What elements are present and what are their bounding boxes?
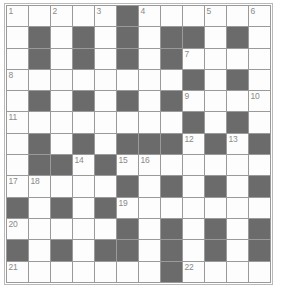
white-cell[interactable]	[73, 240, 95, 261]
white-cell[interactable]	[183, 240, 205, 261]
white-cell[interactable]	[7, 27, 29, 48]
white-cell[interactable]	[161, 6, 183, 27]
white-cell[interactable]	[51, 48, 73, 69]
white-cell[interactable]	[249, 155, 271, 176]
white-cell[interactable]	[95, 91, 117, 112]
white-cell[interactable]	[95, 69, 117, 90]
white-cell[interactable]	[51, 218, 73, 239]
white-cell[interactable]: 3	[95, 6, 117, 27]
white-cell[interactable]	[95, 112, 117, 133]
white-cell[interactable]	[249, 197, 271, 218]
white-cell[interactable]	[51, 133, 73, 154]
white-cell[interactable]	[7, 155, 29, 176]
white-cell[interactable]	[139, 112, 161, 133]
white-cell[interactable]	[183, 218, 205, 239]
white-cell[interactable]: 21	[7, 261, 29, 282]
white-cell[interactable]: 10	[249, 91, 271, 112]
white-cell[interactable]	[95, 27, 117, 48]
white-cell[interactable]	[205, 69, 227, 90]
white-cell[interactable]	[95, 218, 117, 239]
white-cell[interactable]	[161, 197, 183, 218]
white-cell[interactable]	[205, 197, 227, 218]
white-cell[interactable]: 6	[249, 6, 271, 27]
white-cell[interactable]	[73, 6, 95, 27]
white-cell[interactable]	[73, 218, 95, 239]
white-cell[interactable]: 20	[7, 218, 29, 239]
white-cell[interactable]	[139, 91, 161, 112]
white-cell[interactable]	[51, 91, 73, 112]
white-cell[interactable]	[227, 240, 249, 261]
white-cell[interactable]	[95, 133, 117, 154]
white-cell[interactable]	[139, 240, 161, 261]
white-cell[interactable]	[29, 261, 51, 282]
white-cell[interactable]	[227, 6, 249, 27]
white-cell[interactable]	[29, 69, 51, 90]
white-cell[interactable]: 11	[7, 112, 29, 133]
white-cell[interactable]: 9	[183, 91, 205, 112]
white-cell[interactable]	[161, 112, 183, 133]
white-cell[interactable]	[139, 69, 161, 90]
white-cell[interactable]	[205, 48, 227, 69]
white-cell[interactable]: 5	[205, 6, 227, 27]
crossword-grid[interactable]: 12345678910111213141516171819202122	[6, 5, 271, 283]
white-cell[interactable]	[249, 69, 271, 90]
white-cell[interactable]	[227, 261, 249, 282]
white-cell[interactable]: 22	[183, 261, 205, 282]
white-cell[interactable]	[205, 112, 227, 133]
white-cell[interactable]	[139, 218, 161, 239]
white-cell[interactable]	[73, 69, 95, 90]
white-cell[interactable]: 17	[7, 176, 29, 197]
white-cell[interactable]	[73, 112, 95, 133]
white-cell[interactable]	[205, 27, 227, 48]
white-cell[interactable]	[249, 48, 271, 69]
white-cell[interactable]	[161, 155, 183, 176]
white-cell[interactable]	[7, 48, 29, 69]
white-cell[interactable]	[139, 48, 161, 69]
white-cell[interactable]: 4	[139, 6, 161, 27]
white-cell[interactable]	[249, 112, 271, 133]
white-cell[interactable]	[51, 27, 73, 48]
white-cell[interactable]	[29, 112, 51, 133]
white-cell[interactable]	[73, 176, 95, 197]
white-cell[interactable]: 16	[139, 155, 161, 176]
white-cell[interactable]: 18	[29, 176, 51, 197]
white-cell[interactable]: 12	[183, 133, 205, 154]
white-cell[interactable]	[161, 69, 183, 90]
white-cell[interactable]	[227, 218, 249, 239]
white-cell[interactable]	[95, 176, 117, 197]
white-cell[interactable]	[205, 261, 227, 282]
white-cell[interactable]	[29, 197, 51, 218]
white-cell[interactable]	[73, 261, 95, 282]
white-cell[interactable]	[73, 197, 95, 218]
white-cell[interactable]	[7, 133, 29, 154]
white-cell[interactable]: 19	[117, 197, 139, 218]
white-cell[interactable]	[29, 218, 51, 239]
white-cell[interactable]	[183, 176, 205, 197]
white-cell[interactable]	[51, 261, 73, 282]
white-cell[interactable]	[249, 27, 271, 48]
white-cell[interactable]	[95, 48, 117, 69]
white-cell[interactable]	[51, 176, 73, 197]
white-cell[interactable]	[29, 6, 51, 27]
white-cell[interactable]	[51, 69, 73, 90]
white-cell[interactable]	[117, 261, 139, 282]
white-cell[interactable]	[117, 69, 139, 90]
white-cell[interactable]: 8	[7, 69, 29, 90]
white-cell[interactable]	[139, 261, 161, 282]
white-cell[interactable]	[227, 176, 249, 197]
white-cell[interactable]: 2	[51, 6, 73, 27]
white-cell[interactable]: 1	[7, 6, 29, 27]
white-cell[interactable]: 14	[73, 155, 95, 176]
white-cell[interactable]	[183, 6, 205, 27]
white-cell[interactable]	[227, 197, 249, 218]
white-cell[interactable]: 7	[183, 48, 205, 69]
white-cell[interactable]	[139, 197, 161, 218]
white-cell[interactable]	[139, 176, 161, 197]
white-cell[interactable]	[205, 155, 227, 176]
white-cell[interactable]	[183, 155, 205, 176]
white-cell[interactable]	[7, 91, 29, 112]
white-cell[interactable]	[227, 155, 249, 176]
white-cell[interactable]	[139, 27, 161, 48]
white-cell[interactable]	[95, 261, 117, 282]
white-cell[interactable]	[29, 240, 51, 261]
